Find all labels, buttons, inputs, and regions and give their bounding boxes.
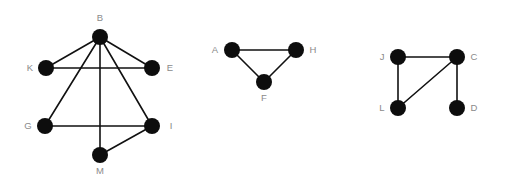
node-label-m: M <box>96 165 104 176</box>
graph-node-i[interactable] <box>144 118 160 134</box>
node-label-a: A <box>212 44 219 55</box>
graph-node-e[interactable] <box>144 60 160 76</box>
graph-node-b[interactable] <box>92 29 108 45</box>
graph-node-j[interactable] <box>390 49 406 65</box>
graph-node-f[interactable] <box>256 74 272 90</box>
background <box>0 0 505 180</box>
node-label-l: L <box>379 102 384 113</box>
node-label-k: K <box>27 62 34 73</box>
node-label-b: B <box>97 12 103 23</box>
figure-canvas: BKEGIMAHFJCLD <box>0 0 505 180</box>
graph-node-k[interactable] <box>38 60 54 76</box>
graph-node-m[interactable] <box>92 147 108 163</box>
graph-node-d[interactable] <box>449 100 465 116</box>
node-label-f: F <box>261 92 267 103</box>
graph-collection-svg: BKEGIMAHFJCLD <box>0 0 505 180</box>
node-label-g: G <box>24 120 31 131</box>
node-label-d: D <box>471 102 478 113</box>
graph-node-a[interactable] <box>224 42 240 58</box>
graph-node-g[interactable] <box>37 118 53 134</box>
graph-node-c[interactable] <box>449 49 465 65</box>
node-label-j: J <box>380 51 385 62</box>
node-label-i: I <box>170 120 173 131</box>
node-label-e: E <box>167 62 173 73</box>
node-label-c: C <box>471 51 478 62</box>
node-label-h: H <box>310 44 317 55</box>
graph-node-l[interactable] <box>390 100 406 116</box>
graph-node-h[interactable] <box>288 42 304 58</box>
